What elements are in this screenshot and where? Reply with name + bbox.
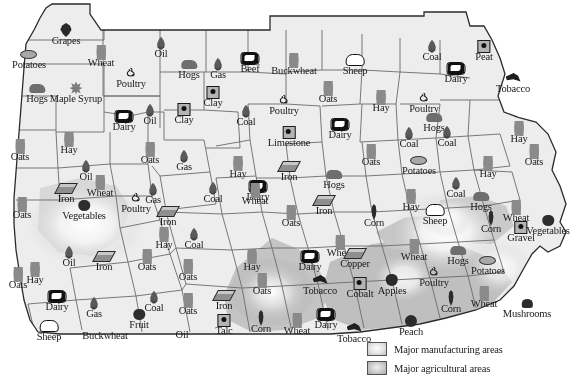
resource-marker[interactable]: Potatoes	[471, 252, 505, 276]
resource-marker[interactable]: Wheat	[242, 182, 268, 206]
resource-marker[interactable]: Wheat	[471, 285, 497, 309]
resource-marker[interactable]: Coal	[422, 38, 441, 62]
box-icon	[215, 312, 232, 326]
resource-marker[interactable]: Coal	[446, 175, 465, 199]
resource-marker[interactable]: Oil	[63, 244, 76, 268]
resource-marker[interactable]: Apples	[378, 272, 407, 296]
resource-marker[interactable]: Peat	[475, 38, 492, 62]
resource-marker[interactable]: Oats	[362, 143, 380, 167]
resource-marker[interactable]: Gas	[86, 295, 102, 319]
resource-marker[interactable]: Iron	[315, 192, 333, 216]
resource-marker[interactable]: Buckwheat	[271, 52, 316, 76]
resource-marker[interactable]: Gas	[210, 56, 226, 80]
resource-marker[interactable]: Tobacco	[337, 320, 371, 344]
resource-marker[interactable]: Oats	[179, 292, 197, 316]
resource-marker[interactable]: Hay	[480, 155, 497, 179]
resource-marker[interactable]: Hogs	[470, 188, 491, 212]
resource-marker[interactable]: Peach	[399, 313, 423, 337]
resource-marker[interactable]: Hogs	[323, 166, 344, 190]
resource-marker[interactable]: Grapes	[52, 22, 81, 46]
resource-marker[interactable]: Oats	[138, 248, 156, 272]
resource-marker[interactable]: Corn	[481, 210, 501, 234]
resource-marker[interactable]: Coal	[203, 180, 222, 204]
resource-marker[interactable]: Gas	[176, 148, 192, 172]
resource-marker[interactable]: Dairy	[113, 108, 136, 132]
resource-marker[interactable]: Corn	[364, 204, 384, 228]
resource-marker[interactable]: Poultry	[116, 65, 146, 89]
resource-marker[interactable]: Vegetables	[62, 197, 105, 221]
flame-icon	[446, 175, 465, 189]
resource-marker[interactable]: Oats	[253, 272, 271, 296]
resource-marker[interactable]: Iron	[159, 203, 177, 227]
resource-marker-label: Oil	[176, 329, 189, 340]
resource-marker[interactable]: Coal	[184, 226, 203, 250]
resource-marker[interactable]: Sheep	[37, 318, 62, 342]
resource-marker[interactable]: Oats	[11, 138, 29, 162]
cow-icon	[329, 116, 352, 130]
resource-marker[interactable]: Oil	[144, 102, 157, 126]
resource-marker[interactable]: Potatoes	[12, 46, 46, 70]
resource-marker[interactable]: Clay	[203, 84, 222, 108]
resource-marker[interactable]: Sheep	[423, 202, 448, 226]
resource-marker[interactable]: Iron	[215, 287, 233, 311]
resource-marker[interactable]: Poultry	[419, 264, 449, 288]
wheat-icon	[319, 80, 337, 94]
resource-marker[interactable]: Corn	[441, 290, 461, 314]
resource-marker[interactable]: Beef	[240, 50, 259, 74]
resource-marker[interactable]: Wheat	[88, 44, 114, 68]
resource-marker[interactable]: Hay	[373, 89, 390, 113]
resource-marker[interactable]: Oats	[319, 80, 337, 104]
resource-marker[interactable]: Hogs	[26, 80, 47, 104]
resource-marker[interactable]: Copper	[340, 245, 370, 269]
resource-marker[interactable]: Wheat	[401, 238, 427, 262]
resource-marker[interactable]: Hay	[156, 226, 173, 250]
resource-marker[interactable]: Dairy	[329, 116, 352, 140]
resource-marker[interactable]: Potatoes	[402, 152, 436, 176]
resource-marker[interactable]: Hogs	[178, 56, 199, 80]
resource-marker[interactable]: Wheat	[87, 174, 113, 198]
resource-marker[interactable]: Talc	[215, 312, 232, 336]
resource-marker[interactable]: Coal	[437, 124, 456, 148]
resource-marker[interactable]: Buckwheat	[82, 330, 127, 341]
resource-marker[interactable]: Hay	[511, 120, 528, 144]
grapes-icon	[52, 22, 81, 36]
resource-marker[interactable]: Oats	[141, 141, 159, 165]
resource-marker[interactable]: Corn	[251, 310, 271, 334]
resource-marker[interactable]: Oil	[176, 329, 189, 340]
resource-marker[interactable]: Tobacco	[496, 70, 530, 94]
resource-marker[interactable]: Wheat	[284, 312, 310, 336]
resource-marker[interactable]: Poultry	[269, 92, 299, 116]
resource-marker[interactable]: Coal	[236, 103, 255, 127]
resource-marker[interactable]: Poultry	[121, 190, 151, 214]
resource-marker[interactable]: Iron	[280, 158, 298, 182]
resource-marker[interactable]: Hay	[27, 261, 44, 285]
resource-marker[interactable]: Dairy	[299, 248, 322, 272]
resource-marker[interactable]: Hogs	[447, 242, 468, 266]
resource-marker[interactable]: Dairy	[445, 60, 468, 84]
resource-marker[interactable]: Limestone	[268, 124, 311, 148]
resource-marker[interactable]: Mushrooms	[503, 295, 551, 319]
resource-marker[interactable]: Oil	[155, 35, 168, 59]
resource-marker[interactable]: Vegetables	[526, 212, 569, 236]
resource-marker[interactable]: Maple Syrup	[50, 80, 102, 104]
resource-marker[interactable]: Cobalt	[347, 275, 374, 299]
resource-marker[interactable]: Oats	[13, 196, 31, 220]
resource-marker[interactable]: Clay	[174, 101, 193, 125]
resource-marker[interactable]: Iron	[95, 248, 113, 272]
resource-marker[interactable]: Dairy	[46, 288, 69, 312]
resource-marker[interactable]: Oats	[282, 204, 300, 228]
resource-marker[interactable]: Fruit	[129, 306, 148, 330]
resource-marker[interactable]: Oats	[525, 143, 543, 167]
resource-marker[interactable]: Hay	[61, 131, 78, 155]
resource-marker[interactable]: Coal	[399, 125, 418, 149]
resource-marker[interactable]: Oats	[179, 258, 197, 282]
resource-marker[interactable]: Hay	[244, 248, 261, 272]
resource-marker[interactable]: Tobacco	[303, 272, 337, 296]
resource-marker[interactable]: Sheep	[343, 52, 368, 76]
resource-marker[interactable]: Hay	[403, 188, 420, 212]
resource-marker[interactable]: Dairy	[315, 306, 338, 330]
resource-marker[interactable]: Oats	[9, 266, 27, 290]
resource-marker[interactable]: Hay	[230, 155, 247, 179]
wheat-icon	[156, 226, 173, 240]
cow-icon	[445, 60, 468, 74]
